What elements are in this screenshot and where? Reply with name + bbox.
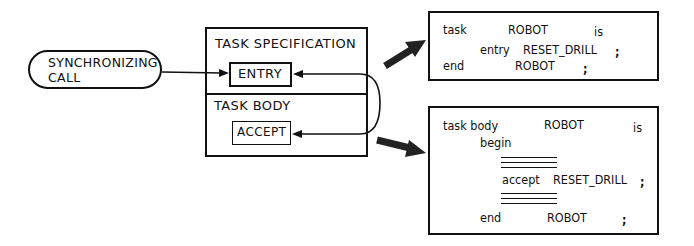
body-code-reset-drill: RESET_DRILL <box>553 172 627 187</box>
spec-code-semicolon-1: ; <box>615 44 620 59</box>
body-code-semicolon-1: ; <box>640 174 645 189</box>
elision-line <box>501 157 557 158</box>
elision-line <box>501 162 557 163</box>
elision-line <box>501 198 557 199</box>
elision-line <box>501 203 557 204</box>
caller-label-line2: CALL <box>48 70 158 85</box>
accept-label: ACCEPT <box>237 125 286 139</box>
caller-label-line1: SYNCHRONIZING <box>48 55 158 70</box>
spec-code-task-kw: task <box>443 22 467 37</box>
spec-code-robot-end: ROBOT <box>515 58 555 73</box>
spec-code-is-kw: is <box>594 24 603 39</box>
body-code-accept-kw: accept <box>502 172 540 187</box>
elision-line <box>501 167 557 168</box>
spec-code-entry-kw: entry <box>480 42 510 57</box>
task-divider <box>205 93 368 95</box>
spec-code-semicolon-2: ; <box>583 61 588 76</box>
thick-arrow-to-spec-icon <box>385 40 426 66</box>
task-specification-label: TASK SPECIFICATION <box>215 36 356 51</box>
body-code-task-body-kw: task body <box>443 118 498 133</box>
body-code-begin-kw: begin <box>480 135 511 150</box>
body-code-robot: ROBOT <box>544 117 584 132</box>
body-code-semicolon-2: ; <box>622 212 627 227</box>
elision-line <box>501 193 557 194</box>
entry-label: ENTRY <box>238 66 282 81</box>
task-body-label: TASK BODY <box>214 98 291 113</box>
synchronizing-call-label: SYNCHRONIZING CALL <box>48 55 158 85</box>
spec-code-robot: ROBOT <box>508 22 548 37</box>
body-code-robot-end: ROBOT <box>547 210 587 225</box>
thick-arrow-to-body-icon <box>377 140 426 157</box>
spec-code-end-kw: end <box>443 58 464 73</box>
body-code-end-kw: end <box>480 210 501 225</box>
spec-code-reset-drill: RESET_DRILL <box>523 42 597 57</box>
body-code-is-kw: is <box>633 120 642 135</box>
